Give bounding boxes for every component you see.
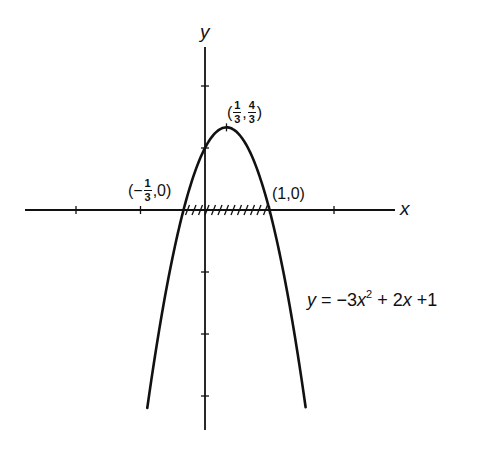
y-axis-label: y xyxy=(200,22,210,41)
fraction-y: 43 xyxy=(248,100,256,125)
parabola-plot xyxy=(0,0,489,452)
root-left-label: ( − 13 ,0) xyxy=(128,178,171,203)
parabola-curve xyxy=(147,127,305,408)
equation-label: y = −3x2 + 2x +1 xyxy=(307,289,437,309)
vertex-label: ( 13 , 43 ) xyxy=(227,100,262,125)
fraction-x: 13 xyxy=(233,100,241,125)
x-axis-label: x xyxy=(400,199,410,218)
fraction-one-third: 13 xyxy=(144,178,152,203)
root-right-label: (1,0) xyxy=(272,186,305,202)
axes xyxy=(25,47,395,430)
